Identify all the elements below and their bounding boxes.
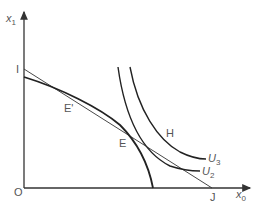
y-axis-label: x1 [5, 12, 17, 27]
indifference-curve-u3 [130, 67, 206, 159]
point-e-label: E [119, 137, 126, 149]
frontier-curve [24, 77, 153, 188]
origin-label: O [14, 186, 23, 198]
diagram-svg: x1 x0 O I J E' E H U3 U2 [0, 0, 266, 212]
x-axis-label: x0 [235, 188, 247, 203]
u2-label: U2 [202, 165, 215, 180]
diagram-canvas: x1 x0 O I J E' E H U3 U2 [0, 0, 266, 212]
point-j-label: J [210, 191, 216, 203]
point-h-label: H [166, 127, 174, 139]
point-e-prime-label: E' [64, 102, 73, 114]
point-i-label: I [16, 63, 19, 75]
